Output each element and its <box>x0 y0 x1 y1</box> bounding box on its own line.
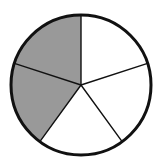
fraction-circle-figure <box>0 0 162 163</box>
pie-chart-svg <box>0 0 162 163</box>
